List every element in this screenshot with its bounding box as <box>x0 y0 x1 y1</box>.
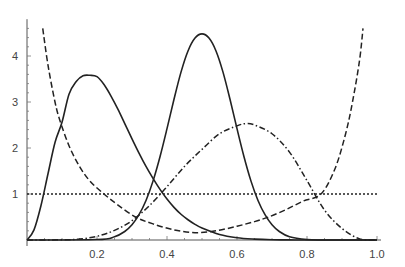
tick-labels: 12340.20.40.60.81.0 <box>12 50 385 260</box>
series-dash-dot <box>27 124 377 241</box>
chart: 12340.20.40.60.81.0 <box>0 0 405 267</box>
series-group <box>27 28 377 240</box>
series-dashed <box>43 28 363 232</box>
y-tick-label: 2 <box>12 142 18 154</box>
x-tick-label: 0.4 <box>159 248 174 260</box>
y-tick-label: 1 <box>12 188 18 200</box>
y-tick-label: 3 <box>12 96 18 108</box>
series-solid-left <box>27 75 377 240</box>
series-solid-center <box>27 34 377 240</box>
x-tick-label: 0.2 <box>89 248 104 260</box>
y-tick-label: 4 <box>12 50 18 62</box>
x-tick-label: 0.8 <box>299 248 314 260</box>
x-tick-label: 0.6 <box>229 248 244 260</box>
x-tick-label: 1.0 <box>369 248 384 260</box>
axes <box>27 19 381 246</box>
